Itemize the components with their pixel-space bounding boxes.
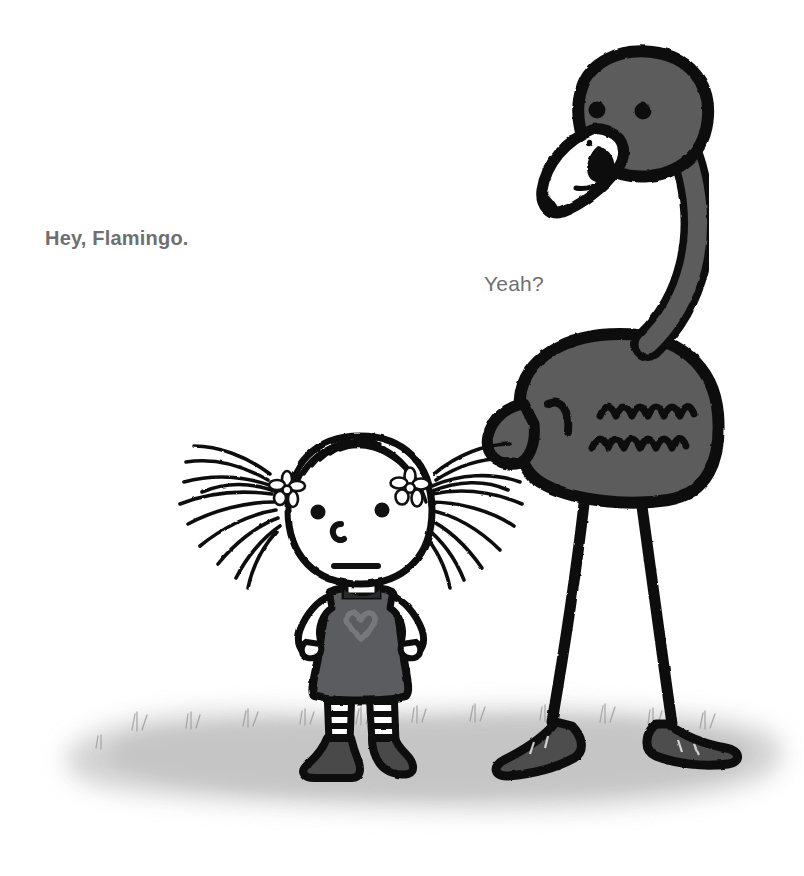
flamingo-beak <box>542 129 624 213</box>
girl-eye-left <box>311 505 326 520</box>
girl-eye-right <box>375 503 390 518</box>
flamingo-character <box>487 51 737 776</box>
flamingo-nostril <box>586 140 592 146</box>
illustration-page: Hey, Flamingo. Yeah? <box>0 0 804 876</box>
caption-flamingo-line: Yeah? <box>484 272 544 296</box>
scene-illustration <box>0 0 804 876</box>
caption-girl-line: Hey, Flamingo. <box>45 227 189 250</box>
pigtail-left <box>180 446 282 588</box>
flamingo-body <box>487 334 718 503</box>
flamingo-legs <box>552 486 672 724</box>
girl-head <box>288 436 432 584</box>
flamingo-eye-right <box>635 103 652 120</box>
flamingo-eye-left <box>589 102 606 119</box>
